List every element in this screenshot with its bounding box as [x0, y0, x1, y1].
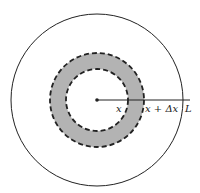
center-point	[95, 98, 99, 102]
label-x-plus-dx: x + Δx	[145, 103, 179, 114]
label-x: x	[116, 103, 122, 114]
label-L: L	[184, 103, 192, 114]
annulus-diagram: x x + Δx L	[0, 0, 200, 193]
